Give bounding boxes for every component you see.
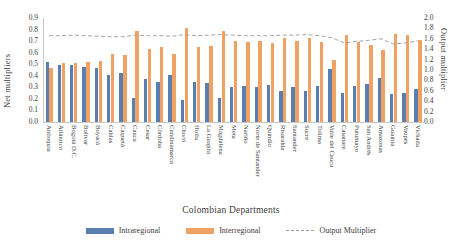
- bar-group[interactable]: [43, 18, 55, 122]
- bar-intraregional[interactable]: [242, 86, 245, 122]
- bar-group[interactable]: [68, 18, 80, 122]
- bar-intraregional[interactable]: [95, 68, 98, 122]
- bar-intraregional[interactable]: [316, 86, 319, 122]
- bar-intraregional[interactable]: [291, 87, 294, 122]
- bar-intraregional[interactable]: [353, 86, 356, 122]
- bar-group[interactable]: [387, 18, 399, 122]
- bar-interregional[interactable]: [345, 35, 348, 122]
- bar-group[interactable]: [129, 18, 141, 122]
- bar-intraregional[interactable]: [181, 100, 184, 122]
- bar-intraregional[interactable]: [58, 65, 61, 122]
- bar-group[interactable]: [301, 18, 313, 122]
- bar-intraregional[interactable]: [230, 87, 233, 122]
- legend-item-interregional[interactable]: Interregional: [186, 226, 260, 235]
- bar-intraregional[interactable]: [168, 75, 171, 122]
- bar-group[interactable]: [203, 18, 215, 122]
- x-label-cell: Atlántico: [55, 124, 67, 204]
- legend-item-intraregional[interactable]: Intraregional: [86, 226, 160, 235]
- bar-interregional[interactable]: [111, 54, 114, 122]
- bar-interregional[interactable]: [234, 41, 237, 122]
- x-axis-label: La Guajira: [206, 125, 213, 154]
- x-axis-label: Risaralda: [279, 125, 286, 150]
- bar-intraregional[interactable]: [82, 67, 85, 122]
- bar-group[interactable]: [277, 18, 289, 122]
- bar-intraregional[interactable]: [378, 78, 381, 122]
- bar-group[interactable]: [117, 18, 129, 122]
- bar-group[interactable]: [178, 18, 190, 122]
- bar-intraregional[interactable]: [304, 91, 307, 122]
- bar-group[interactable]: [314, 18, 326, 122]
- bar-interregional[interactable]: [246, 42, 249, 122]
- bar-group[interactable]: [80, 18, 92, 122]
- bar-interregional[interactable]: [62, 63, 65, 122]
- bar-interregional[interactable]: [258, 41, 261, 122]
- bar-interregional[interactable]: [271, 43, 274, 122]
- bar-interregional[interactable]: [357, 42, 360, 122]
- bar-interregional[interactable]: [135, 31, 138, 122]
- bar-intraregional[interactable]: [119, 73, 122, 122]
- x-axis-label: Vaupés: [402, 125, 409, 144]
- bar-intraregional[interactable]: [107, 75, 110, 122]
- bar-interregional[interactable]: [172, 54, 175, 122]
- bar-interregional[interactable]: [320, 42, 323, 122]
- bar-interregional[interactable]: [332, 60, 335, 122]
- bar-group[interactable]: [55, 18, 67, 122]
- bar-intraregional[interactable]: [279, 91, 282, 122]
- bar-group[interactable]: [363, 18, 375, 122]
- bar-group[interactable]: [215, 18, 227, 122]
- bar-interregional[interactable]: [394, 34, 397, 122]
- bar-intraregional[interactable]: [205, 83, 208, 122]
- bar-group[interactable]: [154, 18, 166, 122]
- bar-intraregional[interactable]: [341, 93, 344, 122]
- bar-interregional[interactable]: [185, 28, 188, 122]
- bar-group[interactable]: [191, 18, 203, 122]
- bar-intraregional[interactable]: [414, 89, 417, 123]
- bar-intraregional[interactable]: [402, 93, 405, 122]
- bar-group[interactable]: [264, 18, 276, 122]
- bar-group[interactable]: [338, 18, 350, 122]
- bar-intraregional[interactable]: [328, 69, 331, 122]
- bar-interregional[interactable]: [148, 49, 151, 122]
- bar-interregional[interactable]: [123, 55, 126, 122]
- bar-intraregional[interactable]: [132, 98, 135, 122]
- bar-group[interactable]: [92, 18, 104, 122]
- bar-group[interactable]: [289, 18, 301, 122]
- bar-interregional[interactable]: [209, 46, 212, 122]
- bar-intraregional[interactable]: [365, 84, 368, 122]
- bar-group[interactable]: [400, 18, 412, 122]
- bar-intraregional[interactable]: [255, 87, 258, 122]
- bar-interregional[interactable]: [49, 68, 52, 122]
- bar-intraregional[interactable]: [193, 82, 196, 122]
- bar-group[interactable]: [412, 18, 424, 122]
- bar-intraregional[interactable]: [267, 85, 270, 122]
- bar-group[interactable]: [104, 18, 116, 122]
- bar-intraregional[interactable]: [46, 62, 49, 122]
- bar-group[interactable]: [141, 18, 153, 122]
- bar-intraregional[interactable]: [390, 94, 393, 122]
- bar-group[interactable]: [227, 18, 239, 122]
- bar-interregional[interactable]: [406, 35, 409, 122]
- bar-interregional[interactable]: [369, 45, 372, 122]
- bar-interregional[interactable]: [418, 40, 421, 122]
- bar-interregional[interactable]: [197, 47, 200, 122]
- bar-group[interactable]: [240, 18, 252, 122]
- bar-interregional[interactable]: [308, 38, 311, 122]
- bar-interregional[interactable]: [74, 63, 77, 122]
- bar-intraregional[interactable]: [156, 82, 159, 122]
- legend-item-output-multiplier[interactable]: Output Multiplier: [286, 226, 376, 235]
- bar-interregional[interactable]: [160, 47, 163, 122]
- bar-intraregional[interactable]: [144, 79, 147, 122]
- bar-intraregional[interactable]: [218, 98, 221, 122]
- bar-group[interactable]: [326, 18, 338, 122]
- bar-group[interactable]: [166, 18, 178, 122]
- bar-interregional[interactable]: [86, 62, 89, 122]
- bar-interregional[interactable]: [99, 61, 102, 122]
- bar-group[interactable]: [252, 18, 264, 122]
- bar-interregional[interactable]: [283, 38, 286, 122]
- bar-interregional[interactable]: [381, 50, 384, 122]
- bar-interregional[interactable]: [222, 31, 225, 122]
- bar-group[interactable]: [375, 18, 387, 122]
- bar-interregional[interactable]: [295, 41, 298, 122]
- bar-intraregional[interactable]: [70, 65, 73, 122]
- bar-group[interactable]: [350, 18, 362, 122]
